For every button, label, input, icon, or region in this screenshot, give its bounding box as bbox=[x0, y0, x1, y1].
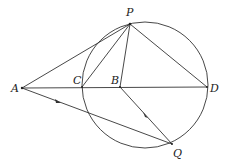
segment-BP bbox=[120, 24, 130, 87]
arrow-mark-AQ bbox=[55, 99, 61, 103]
label-P: P bbox=[125, 6, 134, 19]
segment-PD bbox=[130, 24, 207, 87]
segment-AQ bbox=[22, 88, 172, 144]
label-C: C bbox=[73, 74, 82, 87]
point-P bbox=[129, 23, 132, 26]
label-Q: Q bbox=[173, 147, 182, 160]
label-D: D bbox=[209, 82, 219, 95]
point-B bbox=[119, 86, 121, 88]
point-Q bbox=[171, 143, 173, 145]
label-B: B bbox=[110, 74, 119, 87]
label-A: A bbox=[10, 82, 19, 95]
point-D bbox=[206, 86, 208, 88]
geometry-diagram: P A C B D Q bbox=[0, 0, 231, 163]
point-A bbox=[21, 87, 23, 89]
segment-BQ bbox=[120, 87, 172, 144]
segment-AD bbox=[22, 87, 207, 88]
